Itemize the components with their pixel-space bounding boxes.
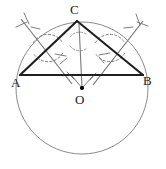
- center-point-marker: [80, 86, 84, 90]
- geometry-canvas: [0, 0, 166, 169]
- line-c-to-o: [79, 24, 82, 88]
- hatch-marks-ac: [16, 13, 74, 79]
- arc-center-lower: [70, 46, 86, 51]
- construction-arcs-center: [70, 32, 86, 51]
- arc-center-upper: [70, 32, 86, 37]
- label-vertex-c: C: [70, 3, 79, 16]
- label-vertex-b: B: [143, 74, 152, 87]
- geometry-figure: A B C O: [0, 0, 166, 169]
- label-vertex-a: A: [11, 76, 20, 89]
- side-cb: [77, 21, 143, 75]
- label-center-o: O: [75, 93, 84, 106]
